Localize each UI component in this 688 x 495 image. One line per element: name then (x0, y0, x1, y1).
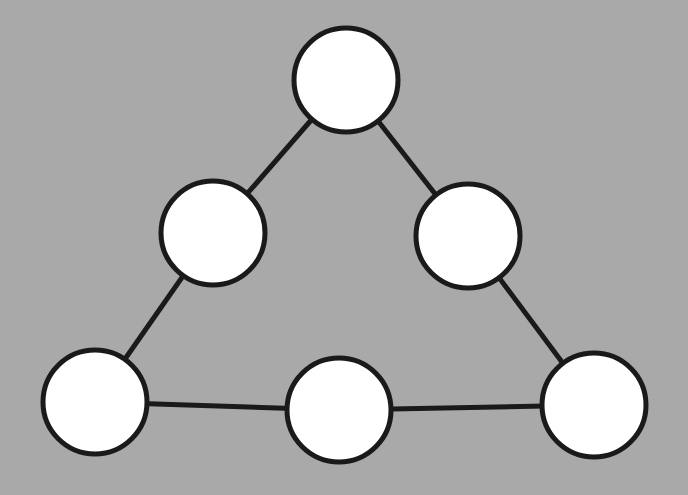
node-bottom-right (542, 353, 646, 457)
triangle-diagram (0, 0, 688, 495)
node-mid-left (161, 181, 265, 285)
node-mid-right (416, 184, 520, 288)
node-bottom-middle (287, 358, 391, 462)
node-top (294, 28, 398, 132)
node-bottom-left (43, 350, 147, 454)
